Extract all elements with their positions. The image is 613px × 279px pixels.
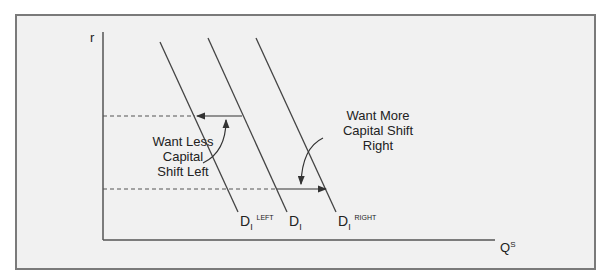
annotation-right: Want More Capital Shift Right	[328, 108, 428, 153]
annotation-left-line: Want Less	[138, 134, 228, 149]
annotation-left-line: Shift Left	[138, 164, 228, 179]
annotation-right-line: Capital Shift	[328, 123, 428, 138]
curve-label-middle: DI	[289, 213, 302, 232]
x-axis-label-main: Q	[500, 240, 510, 255]
demand-curve-right	[256, 38, 336, 212]
y-axis-label: r	[90, 30, 94, 45]
x-axis-label-sup: S	[510, 240, 515, 249]
annotation-left: Want Less Capital Shift Left	[138, 134, 228, 179]
annotation-left-line: Capital	[138, 149, 228, 164]
demand-curve-middle	[208, 38, 287, 212]
curve-label-right: DI RIGHT	[338, 213, 376, 232]
annotation-right-line: Right	[328, 138, 428, 153]
curve-label-left: DI LEFT	[240, 213, 274, 232]
x-axis-label: QS	[500, 240, 515, 255]
annotation-right-line: Want More	[328, 108, 428, 123]
